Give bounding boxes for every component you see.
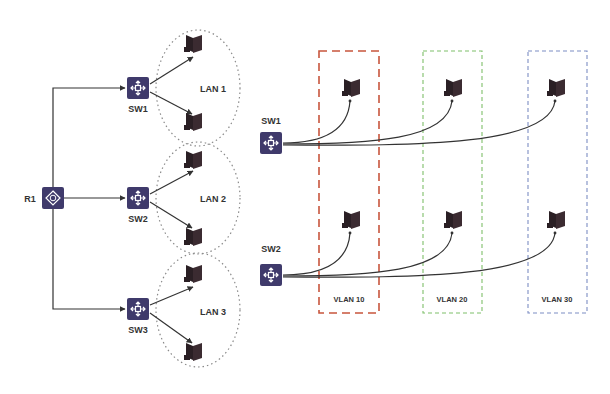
lan-1-label: LAN 1 (200, 84, 226, 94)
vlan-switch-sw1-icon[interactable] (260, 132, 282, 154)
link-sw1-vlan20 (283, 101, 452, 144)
vlan-10-label: VLAN 10 (334, 295, 365, 304)
link-sw2-pc1 (150, 171, 193, 194)
switch-sw1-label: SW1 (128, 104, 148, 114)
link-sw2-vlan10 (283, 233, 350, 275)
switch-sw1-icon[interactable] (127, 77, 149, 99)
lan-3-label: LAN 3 (200, 307, 226, 317)
pc-icon[interactable] (444, 211, 462, 229)
link-r1-sw3 (53, 209, 125, 309)
pc-icon[interactable] (184, 228, 202, 246)
link-sw3-pc2 (150, 313, 192, 343)
pc-icon[interactable] (184, 151, 202, 169)
link-sw2-vlan30 (283, 233, 555, 277)
switch-sw3-icon[interactable] (127, 298, 149, 320)
link-sw2-vlan20 (283, 233, 452, 276)
vlan-switch-sw1-label: SW1 (261, 116, 281, 126)
pc-icon[interactable] (547, 79, 565, 97)
pc-icon[interactable] (342, 79, 360, 97)
pc-icon[interactable] (184, 265, 202, 283)
left-topology: R1 SW1 SW2 SW3 LAN 1 LAN 2 LAN 3 (24, 30, 240, 367)
link-sw1-pc2 (150, 92, 192, 114)
link-sw2-pc2 (150, 202, 192, 228)
network-diagram: R1 SW1 SW2 SW3 LAN 1 LAN 2 LAN 3 (0, 0, 610, 394)
router-r1[interactable] (42, 187, 64, 209)
vlan-switch-sw2-label: SW2 (261, 244, 281, 254)
link-sw1-vlan10 (283, 101, 350, 143)
router-r1-label: R1 (24, 194, 36, 204)
switch-sw3-label: SW3 (128, 325, 148, 335)
right-topology: SW1 SW2 VLAN 10 VLAN 20 VLAN 30 (260, 51, 587, 313)
pc-icon[interactable] (184, 343, 202, 361)
pc-icon[interactable] (444, 79, 462, 97)
link-sw1-pc1 (150, 57, 193, 84)
pc-icon[interactable] (547, 211, 565, 229)
pc-icon[interactable] (342, 211, 360, 229)
vlan-switch-sw2-icon[interactable] (260, 264, 282, 286)
link-r1-sw1 (53, 88, 125, 187)
link-sw1-vlan30 (283, 101, 555, 145)
link-sw3-pc1 (150, 287, 193, 305)
lan-2-label: LAN 2 (200, 194, 226, 204)
switch-sw2-label: SW2 (128, 214, 148, 224)
vlan-20-label: VLAN 20 (437, 295, 468, 304)
switch-sw2-icon[interactable] (127, 187, 149, 209)
vlan-30-label: VLAN 30 (542, 295, 573, 304)
pc-icon[interactable] (184, 35, 202, 53)
pc-icon[interactable] (184, 113, 202, 131)
